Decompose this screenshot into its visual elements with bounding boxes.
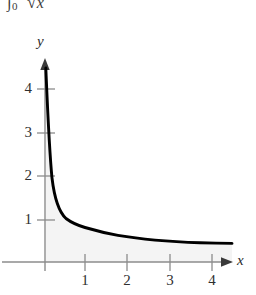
- x-tick-label-3: 3: [162, 272, 178, 289]
- y-tick-label-2: 2: [18, 167, 32, 184]
- shaded-area-under-curve: [46, 68, 232, 262]
- y-tick-label-1: 1: [18, 211, 32, 228]
- y-axis-label: y: [37, 33, 44, 50]
- x-tick-label-2: 2: [119, 272, 135, 289]
- curve-one-over-sqrt-x: [46, 68, 232, 243]
- x-tick-label-1: 1: [77, 272, 93, 289]
- y-tick-label-3: 3: [18, 124, 32, 141]
- figure-canvas: ∫0√x y x 1 2 3 4 1 2 3 4: [0, 0, 256, 295]
- x-tick-label-4: 4: [204, 272, 220, 289]
- x-axis-label: x: [237, 252, 244, 269]
- y-tick-label-4: 4: [18, 80, 32, 97]
